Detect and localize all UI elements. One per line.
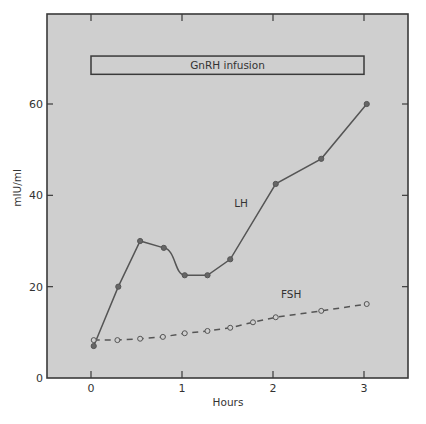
data-point-lh bbox=[161, 245, 166, 250]
x-tick-label: 2 bbox=[270, 382, 277, 395]
data-point-fsh bbox=[273, 315, 278, 320]
chart: 0123 0204060 GnRH infusion LHFSH Hours m… bbox=[0, 0, 426, 424]
data-point-lh bbox=[319, 156, 324, 161]
data-point-fsh bbox=[182, 331, 187, 336]
data-point-fsh bbox=[160, 334, 165, 339]
x-tick-label: 0 bbox=[88, 382, 95, 395]
data-point-fsh bbox=[364, 302, 369, 307]
data-point-lh bbox=[91, 343, 96, 348]
x-tick-label: 1 bbox=[179, 382, 186, 395]
data-point-fsh bbox=[250, 320, 255, 325]
y-tick-label: 40 bbox=[29, 189, 43, 202]
data-point-fsh bbox=[138, 336, 143, 341]
y-axis-label: mIU/ml bbox=[11, 169, 23, 207]
y-tick-label: 0 bbox=[36, 372, 43, 385]
data-point-lh bbox=[205, 273, 210, 278]
data-point-lh bbox=[364, 101, 369, 106]
y-tick-label: 20 bbox=[29, 281, 43, 294]
data-point-fsh bbox=[228, 325, 233, 330]
data-point-lh bbox=[182, 273, 187, 278]
data-point-fsh bbox=[115, 338, 120, 343]
data-point-lh bbox=[138, 238, 143, 243]
data-point-fsh bbox=[91, 338, 96, 343]
series-label-fsh: FSH bbox=[281, 288, 301, 300]
infusion-bar-label: GnRH infusion bbox=[190, 59, 265, 71]
data-point-lh bbox=[273, 181, 278, 186]
y-tick-label: 60 bbox=[29, 98, 43, 111]
data-point-lh bbox=[116, 284, 121, 289]
series-label-lh: LH bbox=[234, 197, 248, 209]
x-tick-label: 3 bbox=[361, 382, 368, 395]
x-axis-label: Hours bbox=[213, 396, 244, 408]
data-point-fsh bbox=[205, 328, 210, 333]
data-point-fsh bbox=[319, 308, 324, 313]
data-point-lh bbox=[228, 257, 233, 262]
